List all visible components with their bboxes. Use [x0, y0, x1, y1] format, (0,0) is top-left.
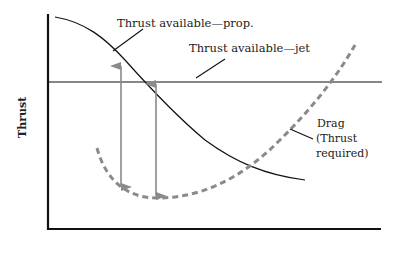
- prop-label: Thrust available—prop.: [117, 16, 254, 30]
- y-axis-label: Thrust: [16, 96, 29, 138]
- jet-label: Thrust available—jet: [189, 41, 310, 55]
- thrust-diagram: Thrust available—prop. Thrust available—…: [0, 0, 398, 253]
- drag-label-3: required): [316, 147, 369, 160]
- drag-leader: [290, 129, 313, 139]
- drag-label-2: (Thrust: [316, 132, 358, 145]
- jet-leader: [196, 59, 225, 78]
- drag-label-1: Drag: [317, 117, 345, 130]
- prop-leader: [113, 29, 143, 51]
